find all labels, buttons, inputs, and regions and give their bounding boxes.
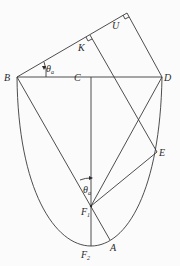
line-KE <box>90 35 157 152</box>
label-C: C <box>74 72 81 83</box>
label-F1: F1 <box>80 206 90 218</box>
label-theta-top: θa <box>46 63 54 75</box>
line-F1E <box>91 152 157 206</box>
label-F2: F2 <box>80 249 90 261</box>
parabola-curve <box>17 77 162 246</box>
label-E: E <box>158 147 165 158</box>
label-theta-mid: θa <box>83 184 91 196</box>
parabola-diagram: B C D K U E A θa θa F1 F2 <box>0 0 180 266</box>
focus-point <box>90 205 92 207</box>
line-BA <box>17 77 110 240</box>
line-BU <box>17 13 127 77</box>
label-K: K <box>77 42 86 53</box>
label-U: U <box>112 20 120 31</box>
label-B: B <box>4 72 10 83</box>
label-A: A <box>109 242 117 253</box>
label-D: D <box>163 72 172 83</box>
line-UD <box>127 13 162 77</box>
